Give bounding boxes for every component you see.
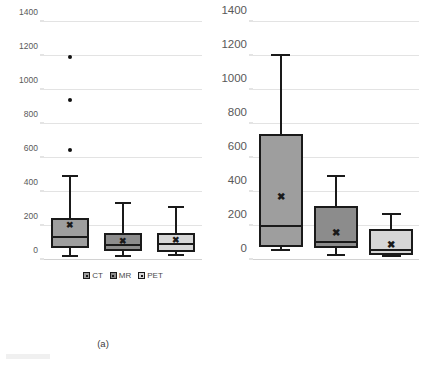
y-axis-tickmark bbox=[40, 157, 44, 158]
whisker-upper bbox=[175, 208, 177, 233]
y-axis-tickmark bbox=[249, 89, 253, 90]
whisker-cap-upper bbox=[327, 175, 345, 177]
y-axis-tick-label: 200 bbox=[228, 208, 253, 220]
y-axis-tickmark bbox=[249, 225, 253, 226]
whisker-cap-upper bbox=[168, 206, 184, 208]
box-plot-group: ✖ bbox=[259, 22, 303, 260]
panel-a: 0200400600800100012001400✖✖✖ CTMRPET (a) bbox=[0, 0, 206, 365]
plot-area-a: 0200400600800100012001400✖✖✖ bbox=[44, 22, 202, 260]
legend-a: CTMRPET bbox=[44, 271, 202, 280]
y-axis-tick-label: 0 bbox=[33, 245, 44, 255]
whisker-cap-upper bbox=[271, 54, 289, 56]
y-axis-tick-label: 1400 bbox=[221, 4, 253, 16]
y-axis-tickmark bbox=[40, 55, 44, 56]
whisker-upper bbox=[335, 177, 337, 206]
whisker-cap-lower bbox=[327, 254, 345, 256]
median-line bbox=[51, 236, 89, 238]
y-axis-tick-label: 1000 bbox=[19, 75, 44, 85]
whisker-upper bbox=[280, 56, 282, 134]
y-axis-tick-label: 1200 bbox=[19, 41, 44, 51]
y-axis-tickmark bbox=[249, 191, 253, 192]
scan-artifact bbox=[6, 354, 50, 359]
box-plot-group: ✖ bbox=[157, 22, 195, 260]
y-axis-tick-label: 800 bbox=[228, 106, 253, 118]
y-axis-tick-label: 1000 bbox=[221, 72, 253, 84]
panel-b: 0200400600800100012001400✖✖✖ hold outk-f… bbox=[206, 0, 426, 365]
median-line bbox=[314, 241, 358, 243]
caption-a: (a) bbox=[0, 338, 206, 349]
box-plot-group: ✖ bbox=[314, 22, 358, 260]
y-axis-tick-label: 200 bbox=[24, 211, 44, 221]
outlier-point bbox=[68, 148, 72, 152]
whisker-upper bbox=[390, 215, 392, 228]
whisker-cap-upper bbox=[62, 175, 78, 177]
y-axis-tickmark bbox=[249, 123, 253, 124]
legend-swatch-icon bbox=[83, 272, 90, 279]
y-axis-tick-label: 800 bbox=[24, 109, 44, 119]
legend-label: MR bbox=[119, 271, 131, 280]
whisker-cap-lower bbox=[382, 255, 400, 257]
whisker-upper bbox=[69, 177, 71, 218]
outlier-point bbox=[68, 55, 72, 59]
y-axis-tick-label: 1400 bbox=[19, 7, 44, 17]
y-axis-tick-label: 1200 bbox=[221, 38, 253, 50]
whisker-cap-upper bbox=[115, 202, 131, 204]
y-axis-tickmark bbox=[249, 55, 253, 56]
plot-area-b: 0200400600800100012001400✖✖✖ bbox=[253, 22, 419, 260]
y-axis-tickmark bbox=[40, 21, 44, 22]
legend-a-item-0: CT bbox=[83, 271, 103, 280]
y-axis-tick-label: 400 bbox=[228, 174, 253, 186]
y-axis-tickmark bbox=[249, 157, 253, 158]
median-line bbox=[259, 225, 303, 227]
whisker-upper bbox=[122, 204, 124, 233]
box-plot-group: ✖ bbox=[104, 22, 142, 260]
y-axis-tickmark bbox=[40, 191, 44, 192]
whisker-cap-lower bbox=[168, 254, 184, 256]
y-axis-tick-label: 400 bbox=[24, 177, 44, 187]
y-axis-tickmark bbox=[249, 21, 253, 22]
legend-label: PET bbox=[147, 271, 163, 280]
y-axis-tickmark bbox=[40, 123, 44, 124]
y-axis-tick-label: 600 bbox=[24, 143, 44, 153]
y-axis-tickmark bbox=[40, 225, 44, 226]
outlier-point bbox=[68, 98, 72, 102]
y-axis-tickmark bbox=[40, 89, 44, 90]
legend-swatch-icon bbox=[110, 272, 117, 279]
legend-label: CT bbox=[92, 271, 103, 280]
caption-b: (b) bbox=[412, 338, 426, 349]
legend-a-item-1: MR bbox=[110, 271, 131, 280]
y-axis-tickmark bbox=[249, 259, 253, 260]
y-axis-tick-label: 0 bbox=[241, 242, 253, 254]
legend-swatch-icon bbox=[138, 272, 145, 279]
whisker-cap-lower bbox=[62, 255, 78, 257]
legend-a-item-2: PET bbox=[138, 271, 163, 280]
y-axis-tickmark bbox=[40, 259, 44, 260]
boxplot-figure: 0200400600800100012001400✖✖✖ CTMRPET (a)… bbox=[0, 0, 426, 365]
box-plot-group: ✖ bbox=[51, 22, 89, 260]
whisker-cap-upper bbox=[382, 213, 400, 215]
box-plot-group: ✖ bbox=[369, 22, 413, 260]
whisker-cap-lower bbox=[115, 255, 131, 257]
whisker-cap-lower bbox=[271, 249, 289, 251]
y-axis-tick-label: 600 bbox=[228, 140, 253, 152]
